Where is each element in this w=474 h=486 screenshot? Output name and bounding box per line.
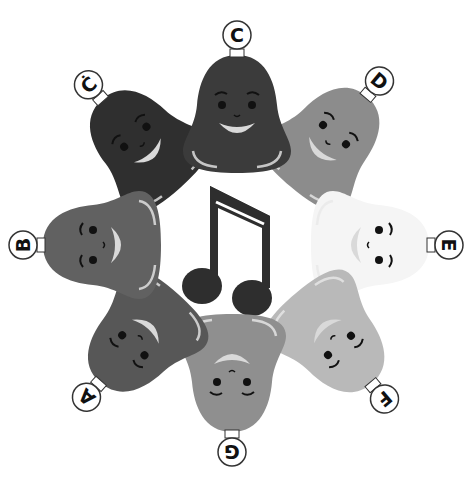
handbell-illustration: CDEFGABĊ C D E F G A B Ċ (0, 0, 474, 486)
bell-b: B (35, 185, 165, 305)
bell-note-label: C (230, 24, 244, 46)
bell-note-label: B (12, 238, 34, 252)
bell-c: C (177, 47, 297, 177)
bell-note-label: G (224, 441, 240, 463)
music-note-icon (180, 176, 276, 316)
bell-note-label: E (438, 239, 460, 252)
